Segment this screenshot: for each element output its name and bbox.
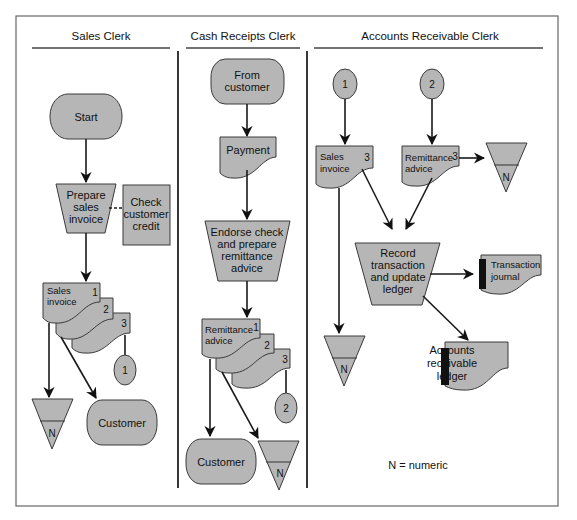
endorse-check-process: Endorse check and prepare remittance adv…	[205, 221, 290, 281]
svg-text:remittance: remittance	[221, 250, 272, 262]
lane-title-cash-receipts-clerk: Cash Receipts Clerk	[191, 30, 296, 42]
svg-text:ledger: ledger	[437, 370, 468, 382]
svg-text:advice: advice	[231, 262, 263, 274]
legend-numeric: N = numeric	[388, 459, 448, 471]
svg-text:3: 3	[282, 354, 288, 365]
svg-text:Accounts: Accounts	[429, 344, 475, 356]
on-page-connector-2: 2	[420, 69, 444, 99]
record-transaction-process: Record transaction and update ledger	[355, 243, 440, 305]
svg-text:Endorse check: Endorse check	[211, 226, 284, 238]
lane-title-ar-clerk: Accounts Receivable Clerk	[361, 30, 499, 42]
customer-terminal-cash: Customer	[186, 439, 256, 484]
svg-text:customer: customer	[123, 208, 169, 220]
svg-text:2: 2	[283, 403, 289, 414]
remittance-advice-document-stack: Remittance advice 1 2 3	[202, 319, 290, 388]
svg-text:1: 1	[342, 79, 348, 90]
flow-arrow	[423, 296, 468, 340]
svg-text:Sales: Sales	[320, 151, 344, 162]
customer-terminal-sales: Customer	[87, 400, 157, 445]
transaction-journal-file: Transaction journal	[479, 255, 541, 294]
numeric-file-cash: N	[258, 441, 299, 490]
sales-invoice-document-stack: Sales invoice 1 2 3	[43, 283, 130, 353]
svg-text:receivable: receivable	[427, 357, 477, 369]
svg-text:From: From	[234, 69, 260, 81]
svg-text:advice: advice	[405, 163, 432, 174]
svg-text:3: 3	[452, 151, 458, 162]
svg-text:Customer: Customer	[98, 417, 146, 429]
numeric-file-remittance: N	[486, 143, 527, 192]
svg-text:2: 2	[264, 340, 270, 351]
svg-text:and update: and update	[370, 271, 425, 283]
sales-invoice-copy3-document: Sales invoice 3	[316, 146, 373, 188]
from-customer-terminal: From customer	[211, 59, 284, 104]
svg-text:invoice: invoice	[69, 213, 103, 225]
svg-text:1: 1	[122, 365, 128, 376]
svg-text:N: N	[502, 172, 509, 183]
on-page-connector-1: 1	[333, 69, 357, 99]
numeric-file-sales-invoice: N	[324, 336, 365, 386]
svg-text:and prepare: and prepare	[217, 238, 276, 250]
svg-text:ledger: ledger	[383, 283, 414, 295]
svg-text:Sales: Sales	[47, 285, 71, 296]
svg-text:3: 3	[121, 318, 127, 329]
svg-text:Check: Check	[130, 196, 162, 208]
svg-text:invoice: invoice	[320, 163, 350, 174]
prepare-sales-invoice-process: Prepare sales invoice	[56, 184, 116, 233]
svg-text:3: 3	[364, 152, 370, 163]
off-page-connector-2: 2	[275, 393, 297, 423]
svg-text:sales: sales	[73, 201, 99, 213]
svg-text:1: 1	[92, 287, 98, 298]
svg-text:Payment: Payment	[226, 144, 269, 156]
svg-text:journal: journal	[490, 271, 520, 282]
svg-text:invoice: invoice	[47, 296, 77, 307]
svg-text:advice: advice	[205, 335, 232, 346]
svg-text:Remittance: Remittance	[205, 324, 253, 335]
lane-title-sales-clerk: Sales Clerk	[72, 30, 131, 42]
svg-text:Prepare: Prepare	[66, 189, 105, 201]
svg-text:customer: customer	[224, 81, 270, 93]
accounts-receivable-ledger-file: Accounts receivable ledger	[427, 342, 508, 390]
svg-text:2: 2	[103, 304, 109, 315]
start-terminal: Start	[50, 94, 122, 139]
svg-text:Start: Start	[74, 111, 97, 123]
svg-text:N: N	[340, 364, 347, 375]
svg-text:N: N	[48, 428, 55, 439]
svg-text:transaction: transaction	[371, 259, 425, 271]
svg-text:N: N	[276, 468, 283, 479]
svg-text:credit: credit	[133, 220, 160, 232]
flowchart: Sales Clerk Cash Receipts Clerk Accounts…	[0, 0, 577, 520]
off-page-connector-1: 1	[114, 355, 136, 385]
svg-text:Customer: Customer	[197, 456, 245, 468]
numeric-file-sales: N	[32, 399, 73, 449]
svg-text:Record: Record	[380, 247, 415, 259]
payment-document: Payment	[220, 137, 276, 178]
svg-text:1: 1	[253, 322, 259, 333]
check-customer-credit-box: Check customer credit	[123, 185, 170, 245]
flow-arrow	[362, 169, 392, 229]
svg-text:2: 2	[429, 79, 435, 90]
svg-text:Transaction: Transaction	[491, 259, 540, 270]
svg-text:Remittance: Remittance	[405, 152, 453, 163]
